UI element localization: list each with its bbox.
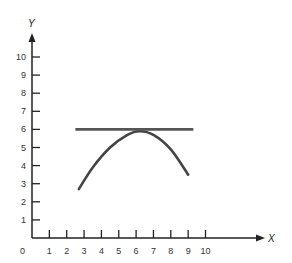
- x-tick-label: 9: [186, 246, 191, 256]
- y-tick-label: 4: [21, 161, 26, 171]
- x-axis-arrow-icon: [256, 235, 265, 242]
- y-axis-arrow-icon: [29, 33, 36, 42]
- x-tick-label: 10: [200, 246, 210, 256]
- x-tick-label: 8: [168, 246, 173, 256]
- x-ticks: 12345678910: [47, 230, 211, 256]
- x-tick-label: 1: [47, 246, 52, 256]
- y-tick-label: 7: [21, 106, 26, 116]
- y-axis-label: Y: [28, 18, 36, 29]
- x-tick-label: 2: [64, 246, 69, 256]
- origin-label: 0: [20, 246, 25, 256]
- y-ticks: 12345678910: [16, 52, 40, 225]
- y-tick-label: 8: [21, 88, 26, 98]
- x-tick-label: 3: [82, 246, 87, 256]
- chart: Y X 0 12345678910 12345678910: [0, 0, 292, 263]
- y-tick-label: 10: [16, 52, 26, 62]
- curve-line: [79, 131, 188, 189]
- x-tick-label: 5: [116, 246, 121, 256]
- y-tick-label: 6: [21, 124, 26, 134]
- x-axis-label: X: [267, 233, 275, 244]
- y-tick-label: 9: [21, 70, 26, 80]
- y-tick-label: 3: [21, 179, 26, 189]
- x-tick-label: 4: [99, 246, 104, 256]
- y-tick-label: 5: [21, 143, 26, 153]
- axes: Y X 0: [20, 18, 275, 256]
- series: [75, 129, 193, 189]
- y-tick-label: 1: [21, 215, 26, 225]
- x-tick-label: 6: [134, 246, 139, 256]
- x-tick-label: 7: [151, 246, 156, 256]
- y-tick-label: 2: [21, 197, 26, 207]
